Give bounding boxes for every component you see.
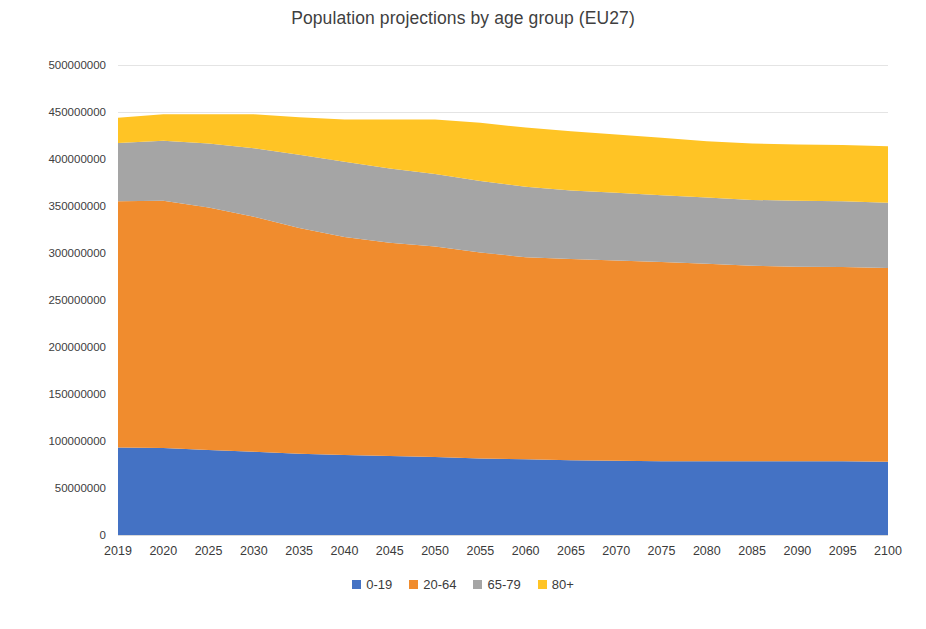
chart-legend: 0-1920-6465-7980+ xyxy=(0,578,926,591)
x-axis-tick-label: 2075 xyxy=(648,544,676,558)
x-axis-tick-label: 2055 xyxy=(466,544,494,558)
x-axis-tick-label: 2070 xyxy=(602,544,630,558)
legend-item-label: 80+ xyxy=(552,578,574,591)
x-axis-tick-label: 2100 xyxy=(874,544,902,558)
y-axis-tick-label: 400000000 xyxy=(48,153,106,165)
area-series-group xyxy=(118,114,888,535)
x-axis-tick-label: 2085 xyxy=(738,544,766,558)
x-axis-tick-label: 2060 xyxy=(512,544,540,558)
y-axis-tick-label: 200000000 xyxy=(48,341,106,353)
legend-swatch-icon xyxy=(538,580,547,589)
x-axis-tick-label: 2065 xyxy=(557,544,585,558)
legend-item-label: 20-64 xyxy=(423,578,456,591)
legend-item-label: 65-79 xyxy=(487,578,520,591)
legend-swatch-icon xyxy=(352,580,361,589)
x-axis-tick-label: 2040 xyxy=(331,544,359,558)
y-axis-tick-label: 50000000 xyxy=(55,482,106,494)
x-axis-tick-label: 2045 xyxy=(376,544,404,558)
x-axis-tick-label: 2080 xyxy=(693,544,721,558)
y-axis-tick-label: 250000000 xyxy=(48,294,106,306)
x-axis-tick-label: 2019 xyxy=(104,544,132,558)
y-axis-tick-label: 100000000 xyxy=(48,435,106,447)
legend-swatch-icon xyxy=(409,580,418,589)
x-axis-tick-label: 2030 xyxy=(240,544,268,558)
x-axis-tick-label: 2035 xyxy=(285,544,313,558)
y-axis-tick-label: 0 xyxy=(100,529,106,541)
legend-item-0-19[interactable]: 0-19 xyxy=(352,578,392,591)
x-axis-tick-label: 2025 xyxy=(195,544,223,558)
x-axis-tick-labels: 2019202020252030203520402045205020552060… xyxy=(104,544,902,558)
legend-item-label: 0-19 xyxy=(366,578,392,591)
stacked-area-plot: 5000000004500000004000000003500000003000… xyxy=(0,0,926,629)
legend-item-80+[interactable]: 80+ xyxy=(538,578,574,591)
y-axis-tick-label: 450000000 xyxy=(48,106,106,118)
legend-item-65-79[interactable]: 65-79 xyxy=(473,578,520,591)
x-axis-tick-label: 2090 xyxy=(784,544,812,558)
y-axis-tick-labels: 5000000004500000004000000003500000003000… xyxy=(48,59,106,541)
legend-item-20-64[interactable]: 20-64 xyxy=(409,578,456,591)
x-axis-tick-label: 2095 xyxy=(829,544,857,558)
legend-swatch-icon xyxy=(473,580,482,589)
x-axis-tick-label: 2050 xyxy=(421,544,449,558)
x-axis-tick-label: 2020 xyxy=(149,544,177,558)
y-axis-tick-label: 500000000 xyxy=(48,59,106,71)
y-axis-tick-label: 350000000 xyxy=(48,200,106,212)
chart-container: Population projections by age group (EU2… xyxy=(0,0,926,629)
y-axis-tick-label: 150000000 xyxy=(48,388,106,400)
y-axis-tick-label: 300000000 xyxy=(48,247,106,259)
